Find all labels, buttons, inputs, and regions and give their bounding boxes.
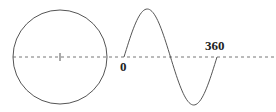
circle-sine-diagram: 0 360 <box>0 0 276 112</box>
label-start: 0 <box>120 59 127 74</box>
sine-wave <box>124 9 217 105</box>
label-end: 360 <box>205 38 225 53</box>
